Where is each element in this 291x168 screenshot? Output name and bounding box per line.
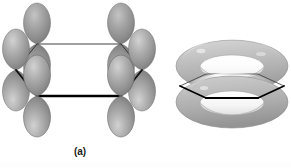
orbital-lobe-lower xyxy=(24,96,51,137)
orbital-lobe-lower xyxy=(108,96,135,137)
panel-b-diagram xyxy=(160,0,291,146)
pi-cloud-torus-lower xyxy=(176,74,288,128)
caption-a: (a) xyxy=(0,146,160,158)
torus-specular-left xyxy=(197,49,206,53)
panel-b-pi-cloud: (b) xyxy=(160,0,291,168)
torus-inner-hole xyxy=(200,91,264,115)
panel-a-diagram xyxy=(0,0,160,146)
orbital-lobe-upper xyxy=(24,3,51,44)
orbital-lobe-upper xyxy=(108,3,135,44)
torus-specular-left xyxy=(200,86,208,90)
figure-container: (a) xyxy=(0,0,291,168)
torus-specular-right xyxy=(256,52,266,56)
bottom-edge-artifact xyxy=(0,163,291,168)
panel-a-orbitals: (a) xyxy=(0,0,160,168)
